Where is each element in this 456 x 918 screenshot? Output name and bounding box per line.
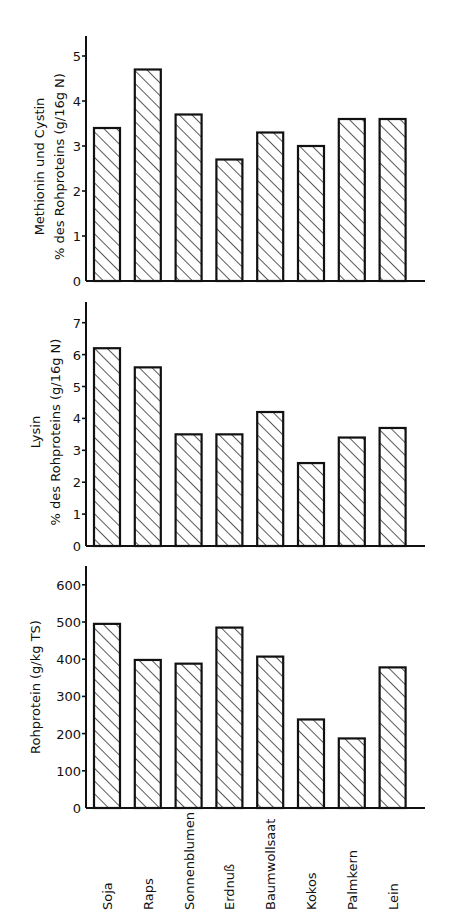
- y-tick-label: 5: [73, 380, 81, 395]
- bar-kokos: [298, 719, 324, 808]
- y-tick-label: 0: [73, 539, 81, 554]
- category-label: Erdnuß: [222, 864, 237, 910]
- bar-baumwollsaat: [257, 133, 283, 282]
- y-tick-label: 600: [56, 578, 81, 593]
- chart-figure: 012345Methionin und Cystin% des Rohprote…: [0, 0, 456, 918]
- category-labels: SojaRapsSonnenblumenErdnußBaumwollsaatKo…: [100, 812, 401, 910]
- y-tick-label: 4: [73, 94, 81, 109]
- category-label: Palmkern: [345, 850, 360, 910]
- y-tick-label: 0: [73, 801, 81, 816]
- bar-sonnenblumen: [176, 115, 202, 282]
- panel-1: 012345Methionin und Cystin% des Rohprote…: [32, 36, 425, 289]
- y-tick-label: 0: [73, 274, 81, 289]
- y-tick-label: 5: [73, 49, 81, 64]
- category-label: Raps: [141, 878, 156, 910]
- bar-raps: [135, 367, 161, 546]
- y-tick-label: 200: [56, 727, 81, 742]
- y-tick-label: 3: [73, 443, 81, 458]
- y-tick-label: 2: [73, 475, 81, 490]
- y-axis-title: Methionin und Cystin: [32, 98, 47, 236]
- bar-erdnuß: [216, 160, 242, 282]
- bar-soja: [94, 348, 120, 546]
- y-axis-title: Lysin: [28, 416, 43, 448]
- category-label: Soja: [100, 882, 115, 910]
- bar-palmkern: [339, 119, 365, 281]
- bar-raps: [135, 70, 161, 282]
- bar-chart-stack: 012345Methionin und Cystin% des Rohprote…: [0, 0, 456, 918]
- category-label: Sonnenblumen: [182, 812, 197, 910]
- y-tick-label: 2: [73, 184, 81, 199]
- y-tick-label: 100: [56, 764, 81, 779]
- bar-soja: [94, 624, 120, 808]
- y-tick-label: 4: [73, 411, 81, 426]
- y-tick-label: 400: [56, 652, 81, 667]
- y-tick-label: 1: [73, 229, 81, 244]
- bar-soja: [94, 128, 120, 281]
- panel-3: 0100200300400500600Rohprotein (g/kg TS): [28, 566, 425, 816]
- bar-lein: [380, 428, 406, 546]
- y-axis-title: Rohprotein (g/kg TS): [28, 620, 43, 754]
- bar-lein: [380, 667, 406, 808]
- y-tick-label: 300: [56, 689, 81, 704]
- category-label: Kokos: [304, 872, 319, 910]
- y-axis-title: % des Rohproteins (g/16g N): [52, 73, 67, 260]
- category-label: Baumwollsaat: [263, 819, 278, 910]
- bar-baumwollsaat: [257, 657, 283, 808]
- y-tick-label: 1: [73, 507, 81, 522]
- bar-erdnuß: [216, 628, 242, 808]
- bar-erdnuß: [216, 434, 242, 546]
- bar-sonnenblumen: [176, 434, 202, 546]
- y-tick-label: 7: [73, 316, 81, 331]
- bar-lein: [380, 119, 406, 281]
- bar-raps: [135, 660, 161, 808]
- y-tick-label: 3: [73, 139, 81, 154]
- bar-kokos: [298, 463, 324, 546]
- bar-palmkern: [339, 438, 365, 546]
- bar-palmkern: [339, 738, 365, 808]
- bar-kokos: [298, 146, 324, 281]
- bar-sonnenblumen: [176, 664, 202, 808]
- y-axis-title: % des Rohproteins (g/16g N): [48, 339, 63, 526]
- panel-2: 01234567Lysin% des Rohproteins (g/16g N): [28, 302, 425, 554]
- bar-baumwollsaat: [257, 412, 283, 546]
- category-label: Lein: [386, 883, 401, 910]
- y-tick-label: 500: [56, 615, 81, 630]
- y-tick-label: 6: [73, 348, 81, 363]
